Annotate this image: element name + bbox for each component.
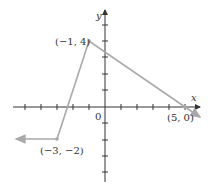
x-axis-label: x bbox=[191, 92, 197, 103]
point-label-neg3-neg2: (−3, −2) bbox=[40, 145, 84, 156]
y-axis-label: y bbox=[95, 10, 102, 21]
point-neg3-neg2 bbox=[55, 137, 59, 141]
point-label-5-0: (5, 0) bbox=[167, 112, 194, 123]
piecewise-graph: x y 0 (−1, 4) (−3, −2) (5, 0) bbox=[0, 0, 210, 190]
origin-label: 0 bbox=[95, 111, 101, 122]
point-5-0 bbox=[183, 105, 187, 109]
point-label-neg1-4: (−1, 4) bbox=[55, 36, 90, 47]
